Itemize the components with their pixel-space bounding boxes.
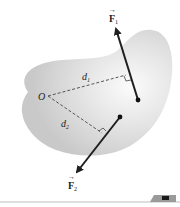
force-1-application-point [136,98,141,103]
point-o-label: O [38,91,45,102]
page-tab-mark [162,196,169,200]
force-1-label: F1 [109,13,118,25]
force-2-vector-symbol: → [68,173,75,181]
force-2-label: F2 [68,180,77,192]
force-2-application-point [118,115,123,120]
force-1-vector-symbol: → [109,6,116,14]
torque-diagram: O d1 d2 F1 → F2 → [0,0,180,207]
